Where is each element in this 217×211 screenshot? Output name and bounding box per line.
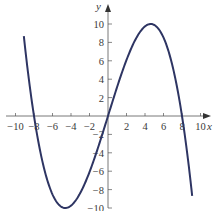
- x-tick-label: 10: [195, 121, 206, 132]
- y-tick-label: −8: [93, 185, 104, 196]
- y-tick-label: −6: [93, 166, 104, 177]
- y-tick-label: −10: [88, 203, 104, 211]
- tick-labels: −10−8−6−4−2246810−10−8−6−4−2246810: [7, 19, 205, 211]
- x-tick-label: −4: [65, 121, 77, 132]
- x-tick-label: 2: [124, 121, 129, 132]
- x-tick-label: 6: [161, 121, 166, 132]
- y-tick-label: 8: [99, 37, 104, 48]
- x-axis-arrow-icon: [203, 113, 211, 119]
- x-tick-label: 4: [142, 121, 148, 132]
- y-tick-label: 6: [99, 56, 104, 67]
- y-axis-arrow-icon: [105, 4, 111, 12]
- y-tick-label: 4: [99, 74, 105, 85]
- x-tick-label: −10: [7, 121, 23, 132]
- y-axis-label: y: [95, 0, 101, 12]
- y-tick-label: 10: [94, 19, 105, 30]
- x-tick-label: −6: [47, 121, 58, 132]
- plot-area: −10−8−6−4−2246810−10−8−6−4−2246810 x y: [0, 0, 217, 211]
- cubic-function-graph: −10−8−6−4−2246810−10−8−6−4−2246810 x y: [0, 0, 217, 211]
- x-tick-label: −8: [28, 121, 39, 132]
- y-tick-label: 2: [99, 93, 104, 104]
- x-axis-label: x: [206, 120, 212, 132]
